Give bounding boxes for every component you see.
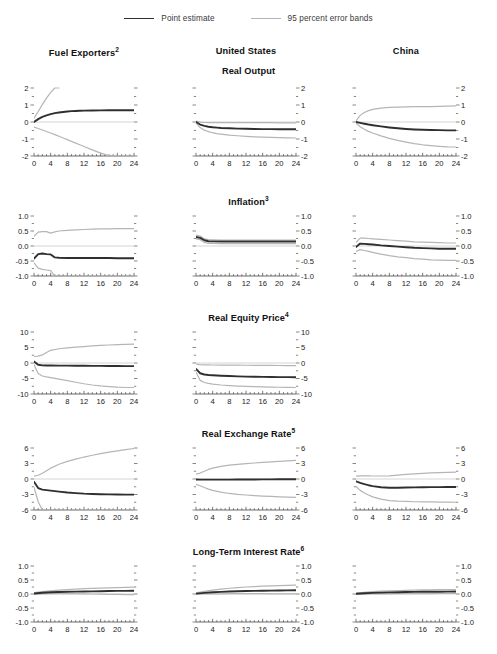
ytick-label: 2 xyxy=(301,84,305,93)
row-title-real-equity-price: Real Equity Price4 xyxy=(0,311,497,323)
ytick-label: -6 xyxy=(461,506,468,515)
ytick-label: 0 xyxy=(461,475,465,484)
xtick-label: 12 xyxy=(402,159,410,168)
xtick-label: 4 xyxy=(49,279,53,288)
ytick-label: 1 xyxy=(301,101,305,110)
ytick-label: 3 xyxy=(461,459,465,468)
xtick-label: 16 xyxy=(96,397,104,406)
plot-real-exchange-rate-united-states: -6-303604812162024 xyxy=(170,448,322,526)
series-point xyxy=(34,254,134,259)
xtick-label: 16 xyxy=(258,279,266,288)
xtick-label: 12 xyxy=(402,279,410,288)
xtick-label: 24 xyxy=(452,625,460,634)
ytick-label: 6 xyxy=(461,444,465,453)
ytick-label: 0.0 xyxy=(461,242,472,251)
xtick-label: 20 xyxy=(435,159,443,168)
ytick-label: 1.0 xyxy=(461,212,472,221)
plot-long-term-interest-rate-united-states: -1.0-0.50.00.51.004812162024 xyxy=(170,566,322,638)
ytick-label: -1.0 xyxy=(301,618,314,627)
ytick-label: 0.0 xyxy=(18,590,29,599)
xtick-label: 20 xyxy=(275,279,283,288)
legend-swatch-error-bands xyxy=(251,18,281,19)
xtick-label: 24 xyxy=(292,397,300,406)
ytick-label: 0 xyxy=(461,118,465,127)
panel-real-output-fuel-exporters: -2-101204812162024 xyxy=(8,88,160,172)
ytick-label: 10 xyxy=(301,328,309,337)
series-upper xyxy=(196,364,296,365)
xtick-label: 4 xyxy=(371,625,375,634)
xtick-label: 8 xyxy=(227,397,231,406)
ytick-label: 0 xyxy=(301,475,305,484)
ytick-label: 0 xyxy=(301,118,305,127)
xtick-label: 8 xyxy=(387,159,391,168)
ytick-label: -2 xyxy=(22,152,29,161)
xtick-label: 12 xyxy=(80,397,88,406)
ytick-label: 1.0 xyxy=(18,212,29,221)
legend-label-error-bands: 95 percent error bands xyxy=(288,14,373,23)
ytick-label: 0.0 xyxy=(301,590,312,599)
panel-inflation-united-states: -1.0-0.50.00.51.004812162024 xyxy=(170,216,322,292)
xtick-label: 0 xyxy=(194,397,198,406)
xtick-label: 20 xyxy=(435,625,443,634)
xtick-label: 0 xyxy=(354,279,358,288)
ytick-label: -1.0 xyxy=(301,272,314,281)
ytick-label: -2 xyxy=(301,152,308,161)
xtick-label: 16 xyxy=(258,397,266,406)
ytick-label: 1.0 xyxy=(18,562,29,571)
column-header-china: China xyxy=(330,46,482,56)
plot-long-term-interest-rate-fuel-exporters: -1.0-0.50.00.51.004812162024 xyxy=(8,566,160,638)
xtick-label: 4 xyxy=(49,513,53,522)
xtick-label: 24 xyxy=(452,513,460,522)
panel-inflation-china: -1.0-0.50.00.51.004812162024 xyxy=(330,216,482,292)
series-upper xyxy=(356,472,456,476)
panel-real-output-united-states: -2-101204812162024 xyxy=(170,88,322,172)
xtick-label: 12 xyxy=(80,279,88,288)
xtick-label: 12 xyxy=(242,279,250,288)
xtick-label: 8 xyxy=(387,513,391,522)
xtick-label: 24 xyxy=(452,159,460,168)
xtick-label: 0 xyxy=(194,279,198,288)
ytick-label: -0.5 xyxy=(15,257,28,266)
xtick-label: 12 xyxy=(402,513,410,522)
xtick-label: 8 xyxy=(227,279,231,288)
figure-root: Point estimate 95 percent error bands Fu… xyxy=(0,0,497,654)
xtick-label: 0 xyxy=(194,159,198,168)
xtick-label: 4 xyxy=(371,513,375,522)
xtick-label: 16 xyxy=(418,625,426,634)
ytick-label: 1 xyxy=(24,101,28,110)
series-point xyxy=(196,369,296,377)
xtick-label: 0 xyxy=(32,397,36,406)
xtick-label: 16 xyxy=(96,279,104,288)
column-header-fuel-exporters: Fuel Exporters2 xyxy=(8,46,160,58)
ytick-label: 2 xyxy=(24,84,28,93)
xtick-label: 24 xyxy=(292,625,300,634)
ytick-label: -5 xyxy=(22,374,29,383)
xtick-label: 24 xyxy=(130,397,138,406)
ytick-label: 0.5 xyxy=(301,576,312,585)
ytick-label: 3 xyxy=(301,459,305,468)
xtick-label: 20 xyxy=(435,513,443,522)
ytick-label: -0.5 xyxy=(301,604,314,613)
ytick-label: -10 xyxy=(18,390,29,399)
ytick-label: 0 xyxy=(24,359,28,368)
panel-real-exchange-rate-united-states: -6-303604812162024 xyxy=(170,448,322,526)
xtick-label: 0 xyxy=(32,279,36,288)
series-upper xyxy=(356,238,456,243)
xtick-label: 8 xyxy=(65,513,69,522)
ytick-label: -5 xyxy=(301,374,308,383)
ytick-label: -3 xyxy=(461,490,468,499)
xtick-label: 0 xyxy=(354,159,358,168)
xtick-label: 4 xyxy=(49,397,53,406)
xtick-label: 12 xyxy=(242,625,250,634)
ytick-label: -1.0 xyxy=(461,272,474,281)
ytick-label: -0.5 xyxy=(15,604,28,613)
chart-legend: Point estimate 95 percent error bands xyxy=(0,14,497,23)
ytick-label: 0.5 xyxy=(461,227,472,236)
xtick-label: 20 xyxy=(275,159,283,168)
series-lower xyxy=(356,123,456,147)
row-title-long-term-interest-rate: Long-Term Interest Rate6 xyxy=(0,545,497,557)
plot-real-equity-price-fuel-exporters: -10-5051004812162024 xyxy=(8,332,160,410)
xtick-label: 4 xyxy=(211,513,215,522)
plot-real-exchange-rate-fuel-exporters: -6-303604812162024 xyxy=(8,448,160,526)
column-headers: Fuel Exporters2 United States China xyxy=(0,46,497,62)
